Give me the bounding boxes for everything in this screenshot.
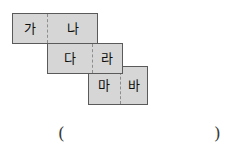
answer-blank: ( ) bbox=[0, 120, 230, 146]
tile-cell-ra: 라 bbox=[92, 44, 122, 73]
answer-open-paren: ( bbox=[58, 120, 65, 146]
tile-block-2: 다 라 bbox=[47, 43, 123, 74]
tile-block-1: 가 나 bbox=[12, 13, 98, 44]
tile-cell-ba: 바 bbox=[120, 67, 147, 104]
tile-cell-na: 나 bbox=[47, 14, 97, 43]
figure-root: 가 나 다 라 마 바 ( ) bbox=[0, 0, 230, 152]
answer-close-paren: ) bbox=[214, 120, 221, 146]
tile-cell-da: 다 bbox=[48, 44, 92, 73]
tile-cell-ga: 가 bbox=[13, 14, 47, 43]
